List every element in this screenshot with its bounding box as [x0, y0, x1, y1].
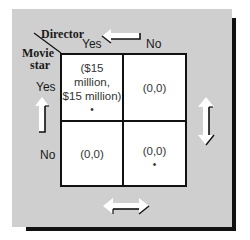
column-header-no: No	[146, 37, 161, 51]
left-arrow-icon	[100, 28, 144, 44]
payoff-text: $15 million)	[63, 89, 122, 103]
row-header-no: No	[40, 148, 55, 162]
cell-yes-no: (0,0)	[122, 53, 187, 122]
up-down-arrow-icon	[196, 96, 216, 146]
payoff-text: (0,0)	[143, 144, 167, 158]
cell-no-yes: (0,0)	[60, 120, 124, 187]
up-arrow-icon	[34, 96, 52, 134]
payoff-text: (0,0)	[143, 81, 167, 95]
cell-no-no: (0,0) •	[122, 120, 187, 187]
payoff-text: ($15 million,	[62, 61, 122, 89]
left-right-arrow-icon	[102, 196, 150, 216]
row-header-yes: Yes	[36, 80, 56, 94]
cell-yes-yes: ($15 million, $15 million) •	[60, 53, 124, 122]
column-player-label: Director	[41, 28, 84, 40]
nash-equilibrium-marker: •	[90, 105, 94, 115]
payoff-text: (0,0)	[80, 147, 104, 161]
nash-equilibrium-marker: •	[153, 160, 157, 170]
row-player-label-line2: star	[30, 59, 50, 71]
column-header-yes: Yes	[82, 37, 102, 51]
